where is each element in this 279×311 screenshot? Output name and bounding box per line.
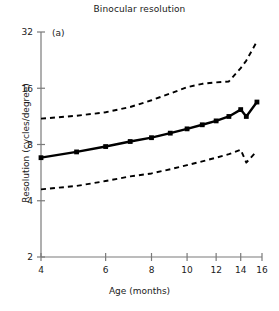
data-point-marker [214, 119, 219, 124]
data-point-marker [103, 144, 108, 149]
x-axis: 46810121416 [38, 253, 268, 275]
data-point-marker [255, 100, 260, 105]
x-tick-label-12: 12 [210, 265, 221, 275]
series-line-lower-bound [41, 150, 257, 190]
data-point-marker [227, 114, 232, 119]
data-series-group [39, 41, 260, 189]
y-tick-label-2: 2 [27, 252, 33, 262]
y-tick-label-4: 4 [27, 196, 33, 206]
x-tick-label-16: 16 [256, 265, 268, 275]
series-line-mean-resolution [41, 102, 257, 158]
x-tick-label-4: 4 [38, 265, 44, 275]
x-tick-label-14: 14 [235, 265, 247, 275]
data-point-marker [185, 126, 190, 131]
y-tick-label-32: 32 [22, 27, 33, 37]
data-point-marker [244, 114, 249, 119]
data-point-marker [200, 122, 205, 127]
data-point-marker [149, 135, 154, 140]
x-tick-label-10: 10 [181, 265, 193, 275]
x-tick-label-6: 6 [103, 265, 109, 275]
series-line-upper-bound [41, 41, 257, 118]
data-point-marker [39, 155, 44, 160]
y-tick-label-8: 8 [27, 140, 33, 150]
plot-area: 2481632 46810121416 [0, 0, 279, 311]
y-axis: 2481632 [22, 27, 45, 262]
y-tick-label-16: 16 [22, 84, 34, 94]
data-point-marker [238, 107, 243, 112]
x-tick-label-8: 8 [149, 265, 155, 275]
data-point-marker [168, 131, 173, 136]
data-point-marker [128, 139, 133, 144]
data-point-marker [74, 150, 79, 155]
chart-figure: Binocular resolution (a) Resolution (cyc… [0, 0, 279, 311]
